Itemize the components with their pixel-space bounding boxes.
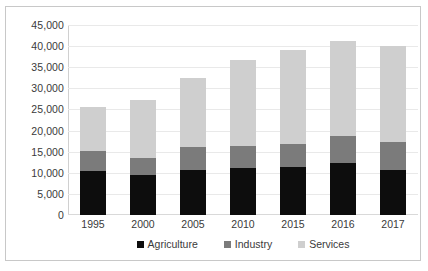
stacked-bar[interactable]	[180, 78, 206, 215]
stacked-bar[interactable]	[130, 100, 156, 215]
stacked-bar[interactable]	[330, 41, 356, 215]
y-tick-label: 5,000	[4, 188, 64, 200]
bar-segment-agriculture[interactable]	[180, 170, 206, 215]
bar-segment-services[interactable]	[80, 107, 106, 152]
bar-segment-services[interactable]	[280, 50, 306, 144]
x-tick-label: 2017	[363, 218, 423, 230]
bar-segment-agriculture[interactable]	[280, 167, 306, 215]
chart-legend: AgricultureIndustryServices	[68, 235, 418, 253]
legend-swatch-icon	[224, 241, 231, 248]
y-tick-label: 0	[4, 209, 64, 221]
legend-swatch-icon	[137, 241, 144, 248]
stacked-bar[interactable]	[230, 60, 256, 215]
legend-label: Services	[309, 238, 349, 250]
y-tick-label: 35,000	[4, 61, 64, 73]
chart-frame: 45,00040,00035,00030,00025,00020,00015,0…	[5, 6, 421, 261]
stacked-bar[interactable]	[380, 46, 406, 215]
stacked-bar[interactable]	[80, 107, 106, 216]
bar-segment-industry[interactable]	[180, 147, 206, 170]
bar-segment-services[interactable]	[180, 78, 206, 147]
bar-segment-agriculture[interactable]	[230, 168, 256, 215]
bar-segment-agriculture[interactable]	[80, 171, 106, 215]
legend-item-services[interactable]: Services	[298, 238, 349, 250]
legend-item-agriculture[interactable]: Agriculture	[137, 238, 198, 250]
plot-area: 45,00040,00035,00030,00025,00020,00015,0…	[68, 25, 418, 215]
y-tick-label: 40,000	[4, 40, 64, 52]
bar-segment-industry[interactable]	[380, 142, 406, 170]
y-tick-label: 20,000	[4, 125, 64, 137]
legend-label: Industry	[235, 238, 272, 250]
bar-segment-industry[interactable]	[230, 146, 256, 168]
bar-segment-services[interactable]	[330, 41, 356, 136]
bar-segment-industry[interactable]	[130, 158, 156, 176]
gridline	[68, 46, 418, 47]
bar-segment-agriculture[interactable]	[380, 170, 406, 215]
legend-label: Agriculture	[148, 238, 198, 250]
bar-segment-industry[interactable]	[80, 151, 106, 171]
y-tick-label: 15,000	[4, 146, 64, 158]
bar-segment-agriculture[interactable]	[130, 175, 156, 215]
y-tick-label: 10,000	[4, 167, 64, 179]
stacked-bar[interactable]	[280, 50, 306, 215]
y-tick-label: 25,000	[4, 103, 64, 115]
bar-segment-services[interactable]	[380, 46, 406, 142]
bar-segment-agriculture[interactable]	[330, 163, 356, 215]
bar-segment-services[interactable]	[130, 100, 156, 157]
y-axis-line	[68, 25, 69, 215]
gridline	[68, 25, 418, 26]
bar-segment-industry[interactable]	[280, 144, 306, 167]
chart-screenshot: 45,00040,00035,00030,00025,00020,00015,0…	[0, 0, 428, 271]
bar-segment-services[interactable]	[230, 60, 256, 146]
y-tick-label: 45,000	[4, 19, 64, 31]
legend-item-industry[interactable]: Industry	[224, 238, 272, 250]
y-tick-label: 30,000	[4, 82, 64, 94]
legend-swatch-icon	[298, 241, 305, 248]
bar-segment-industry[interactable]	[330, 136, 356, 162]
